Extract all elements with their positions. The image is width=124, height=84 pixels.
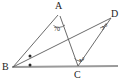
segment-b-d xyxy=(13,18,111,67)
diagram-canvas xyxy=(0,0,124,84)
angle-label-d: y° xyxy=(102,24,107,30)
segment-b-a xyxy=(13,15,58,67)
segment-a-c xyxy=(60,16,78,66)
angle-label-c: x° xyxy=(79,57,84,63)
geometry-diagram: A B C D 70 x° y° xyxy=(0,0,124,84)
baseline-segment xyxy=(12,66,118,67)
vertex-label-c: C xyxy=(74,70,81,80)
bisector-dot-lower-icon xyxy=(29,64,32,67)
vertex-label-d: D xyxy=(111,9,118,19)
vertex-label-b: B xyxy=(2,62,9,72)
bisector-dot-upper-icon xyxy=(29,55,32,58)
vertex-label-a: A xyxy=(55,1,62,11)
angle-label-a: 70 xyxy=(54,26,60,32)
